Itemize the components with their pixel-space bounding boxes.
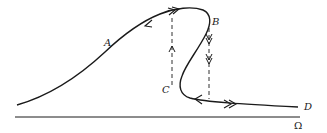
response-curve [17,8,298,107]
hysteresis-diagram: A B C D Ω [0,0,327,133]
label-b: B [211,16,219,27]
label-d: D [303,101,312,112]
label-a: A [103,37,111,48]
label-c: C [162,84,170,95]
axis-label-omega: Ω [294,120,302,131]
